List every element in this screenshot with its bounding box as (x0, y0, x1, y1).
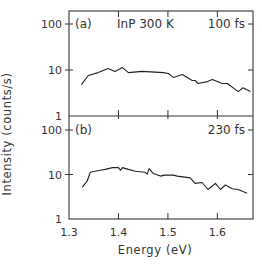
outer-frame (69, 11, 253, 219)
spectrum-line-100-fs (81, 68, 250, 92)
y-tick-label: 100 (41, 124, 62, 137)
delay-annotation: 230 fs (208, 123, 245, 137)
panel-annotations: (a)InP 300 K100 fs(b)230 fs (75, 17, 245, 137)
y-tick-label: 100 (41, 18, 62, 31)
x-tick-label: 1.5 (159, 226, 177, 239)
y-axis-label: Intensity (counts/s) (0, 64, 16, 204)
x-tick-label: 1.4 (110, 226, 128, 239)
y-tick-label: 1 (55, 213, 62, 226)
x-tick-label: 1.3 (60, 226, 78, 239)
sample-annotation: InP 300 K (117, 17, 175, 31)
panel-label: (a) (75, 17, 92, 31)
delay-annotation: 100 fs (208, 17, 245, 31)
x-axis-label: Energy (eV) (100, 243, 210, 257)
plot-frames (69, 11, 253, 219)
x-tick-label: 1.6 (209, 226, 227, 239)
panel-label: (b) (75, 123, 92, 137)
y-tick-label: 10 (48, 169, 62, 182)
chart-area: 1101001101001.31.41.51.6 (a)InP 300 K100… (0, 0, 262, 265)
axis-ticks (65, 11, 253, 219)
y-tick-label: 1 (55, 110, 62, 123)
y-tick-label: 10 (48, 64, 62, 77)
spectrum-line-230-fs (82, 168, 247, 194)
